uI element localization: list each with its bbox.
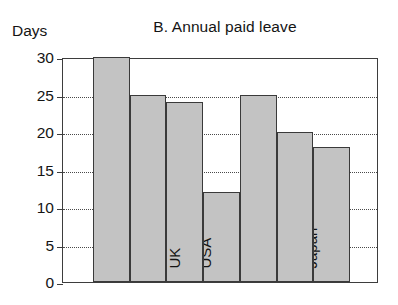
bar-category-label-wrapper: Japan	[314, 147, 349, 276]
bar-category-label-wrapper: France	[131, 126, 166, 276]
y-axis-tick-label: 5	[45, 238, 54, 254]
y-axis-tick-mark	[57, 134, 63, 135]
y-axis-tick-label: 25	[37, 88, 54, 104]
bar: UK	[166, 102, 203, 282]
bar: France	[130, 95, 167, 283]
y-axis-tick-labels: 051015202530	[0, 58, 54, 283]
y-axis-tick-label: 0	[45, 275, 54, 291]
bar-category-label: UK	[167, 248, 182, 269]
bar-category-label-wrapper: Finland	[241, 126, 276, 276]
bar-category-label-wrapper: USA	[204, 192, 239, 276]
y-axis-tick-label: 30	[37, 50, 54, 66]
y-axis-tick-mark	[57, 209, 63, 210]
bars-group: GermanyFranceUKUSAFinlandPolandJapan	[63, 59, 377, 282]
bar-category-label: USA	[203, 238, 213, 269]
chart-title: B. Annual paid leave	[110, 18, 340, 36]
y-axis-tick-mark	[57, 97, 63, 98]
y-axis-tick-label: 10	[37, 200, 54, 216]
bar-category-label-wrapper: Germany	[94, 126, 129, 276]
y-axis-label: Days	[12, 22, 47, 40]
y-axis-tick-mark	[57, 59, 63, 60]
chart-figure: Days B. Annual paid leave 051015202530 G…	[0, 0, 398, 305]
bar: Finland	[240, 95, 277, 283]
bar-category-label-wrapper: Poland	[278, 132, 313, 276]
bar: Poland	[277, 132, 314, 282]
bar-category-label-wrapper: UK	[167, 126, 202, 276]
bar: USA	[203, 192, 240, 282]
bar-category-label: Japan	[313, 228, 318, 269]
bar-category-label: Poland	[277, 222, 279, 269]
y-axis-tick-label: 20	[37, 125, 54, 141]
bar-category-label: Finland	[240, 219, 241, 268]
y-axis-tick-label: 15	[37, 163, 54, 179]
plot-area: GermanyFranceUKUSAFinlandPolandJapan	[62, 58, 378, 283]
y-axis-tick-mark	[57, 172, 63, 173]
y-axis-tick-mark	[57, 247, 63, 248]
bar-category-label: France	[130, 222, 133, 269]
bar: Germany	[93, 57, 130, 282]
y-axis-tick-mark	[57, 284, 63, 285]
bar: Japan	[313, 147, 350, 282]
